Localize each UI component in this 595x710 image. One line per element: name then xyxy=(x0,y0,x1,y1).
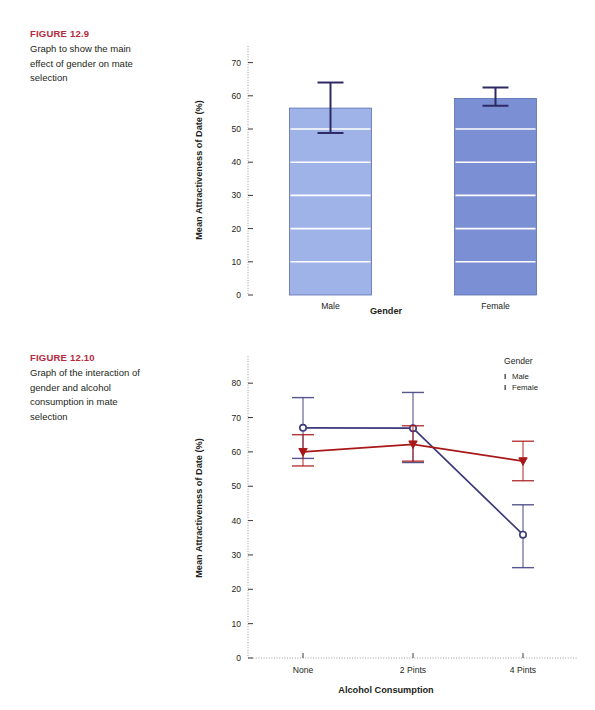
data-point-marker[interactable] xyxy=(520,531,526,537)
figure-caption-text: Graph of the interaction of gender and a… xyxy=(30,366,148,424)
y-tick-label: 80 xyxy=(231,378,241,388)
y-tick-label: 60 xyxy=(231,91,241,101)
line-series-group xyxy=(292,392,534,567)
legend: Gender IMaleIFemale xyxy=(504,356,538,392)
x-axis-category-labels: None2 Pints4 Pints xyxy=(293,665,536,675)
y-axis-title: Mean Attractiveness of Date (%) xyxy=(194,100,204,240)
y-tick-label: 20 xyxy=(231,224,241,234)
bar[interactable] xyxy=(290,108,372,295)
y-tick-label: 20 xyxy=(231,584,241,594)
y-tick-label: 50 xyxy=(231,481,241,491)
legend-entry-label: Female xyxy=(512,383,538,392)
x-category-label: Female xyxy=(481,301,510,311)
y-tick-label: 70 xyxy=(231,58,241,68)
x-category-label: Male xyxy=(321,301,340,311)
y-tick-label: 30 xyxy=(231,550,241,560)
line-chart-figure: 01020304050607080 None2 Pints4 Pints Alc… xyxy=(186,348,586,700)
y-axis-ticks: 01020304050607080 xyxy=(231,378,253,663)
bar-chart-svg: 010203040506070 MaleFemale Gender Mean A… xyxy=(186,18,586,318)
y-tick-label: 10 xyxy=(231,619,241,629)
y-tick-label: 0 xyxy=(236,290,241,300)
figure-label: FIGURE 12.10 xyxy=(30,352,148,363)
y-tick-label: 50 xyxy=(231,124,241,134)
figure-caption-text: Graph to show the main effect of gender … xyxy=(30,42,148,86)
y-tick-label: 60 xyxy=(231,447,241,457)
legend-title: Gender xyxy=(504,356,533,366)
bar-chart-figure: 010203040506070 MaleFemale Gender Mean A… xyxy=(186,18,586,318)
y-tick-label: 0 xyxy=(236,653,241,663)
figure-caption-12-9: FIGURE 12.9 Graph to show the main effec… xyxy=(30,28,148,86)
y-tick-label: 40 xyxy=(231,157,241,167)
x-axis-title: Alcohol Consumption xyxy=(338,685,434,695)
x-category-label: None xyxy=(293,665,314,675)
figure-caption-12-10: FIGURE 12.10 Graph of the interaction of… xyxy=(30,352,148,424)
line-chart-svg: 01020304050607080 None2 Pints4 Pints Alc… xyxy=(186,348,586,700)
legend-marker-icon: I xyxy=(504,372,506,381)
figure-label: FIGURE 12.9 xyxy=(30,28,148,39)
legend-entry-label: Male xyxy=(512,372,529,381)
figure-page: FIGURE 12.9 Graph to show the main effec… xyxy=(0,0,595,710)
y-axis-title: Mean Attractiveness of Date (%) xyxy=(194,438,204,578)
legend-items: IMaleIFemale xyxy=(504,372,538,392)
legend-marker-icon: I xyxy=(504,383,506,392)
x-category-label: 2 Pints xyxy=(400,665,426,675)
y-tick-label: 70 xyxy=(231,413,241,423)
y-tick-label: 40 xyxy=(231,516,241,526)
bar-series xyxy=(290,83,537,295)
data-point-marker[interactable] xyxy=(300,425,306,431)
y-tick-label: 10 xyxy=(231,257,241,267)
x-axis-ticks xyxy=(303,653,523,658)
y-tick-label: 30 xyxy=(231,190,241,200)
x-axis-title: Gender xyxy=(370,306,403,316)
y-axis-ticks: 010203040506070 xyxy=(231,58,253,300)
x-category-label: 4 Pints xyxy=(510,665,536,675)
bar[interactable] xyxy=(455,98,537,295)
x-axis-category-labels: MaleFemale xyxy=(321,301,510,311)
